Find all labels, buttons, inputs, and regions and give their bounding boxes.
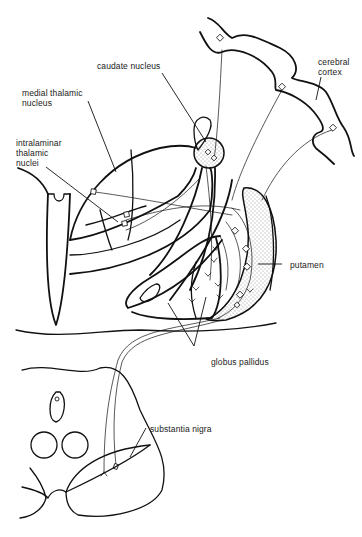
label-caudate-nucleus: caudate nucleus bbox=[97, 61, 160, 71]
label-medial-thalamic-nucleus: medial thalamic nucleus bbox=[22, 88, 83, 108]
nigral-fibers bbox=[104, 318, 222, 472]
internal-capsule bbox=[150, 168, 232, 300]
putamen bbox=[206, 188, 276, 321]
midbrain-section bbox=[20, 367, 164, 518]
cerebral-cortex bbox=[200, 18, 354, 164]
caudate-nucleus bbox=[194, 117, 224, 168]
label-intralaminar-thalamic-nuclei: intralaminar thalamic nuclei bbox=[16, 138, 62, 168]
label-globus-pallidus: globus pallidus bbox=[211, 357, 269, 367]
label-putamen: putamen bbox=[290, 260, 324, 270]
label-substantia-nigra: substantia nigra bbox=[150, 424, 212, 434]
globus-pallidus bbox=[126, 236, 222, 319]
leader-lines bbox=[46, 73, 321, 457]
label-cerebral-cortex: cerebral cortex bbox=[318, 57, 350, 77]
